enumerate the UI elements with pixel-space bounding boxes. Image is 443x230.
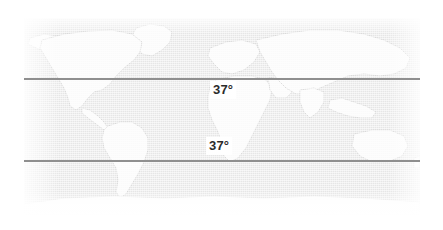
latitude-line-north: [24, 78, 420, 80]
india-shape: [300, 88, 324, 118]
southeast-asia-shape: [328, 98, 376, 118]
central-america-shape: [82, 108, 108, 130]
map-plate: [24, 18, 420, 215]
north-america-shape: [40, 30, 142, 110]
australia-shape: [352, 130, 408, 162]
new-zealand-shape: [414, 156, 420, 168]
antarctica-shape: [24, 196, 420, 215]
latitude-label-south: 37°: [206, 137, 232, 155]
world-map-figure: 37° 37°: [0, 0, 443, 230]
latitude-line-south: [24, 160, 420, 162]
landmass-layer: [24, 18, 420, 215]
europe-shape: [208, 40, 260, 74]
latitude-label-north: 37°: [210, 81, 236, 99]
